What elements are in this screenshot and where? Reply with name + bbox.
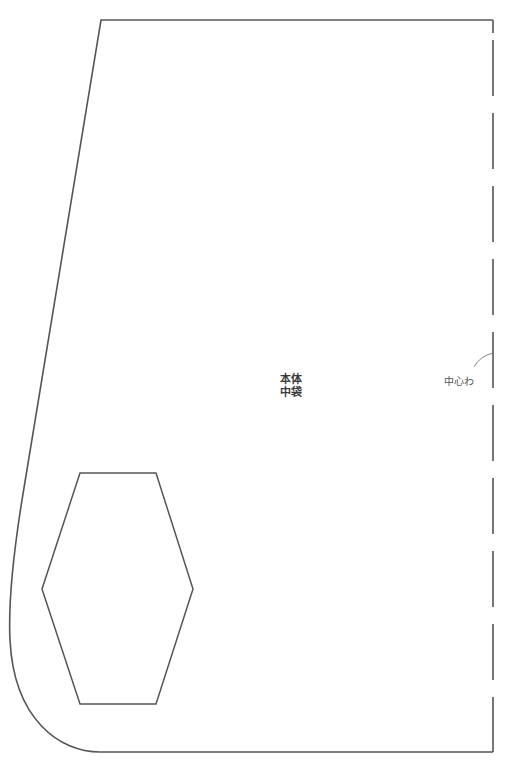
sewing-pattern-piece (0, 0, 510, 770)
piece-label: 本体 中袋 (280, 373, 302, 399)
hexagon-cutout (42, 473, 193, 704)
piece-name-line1: 本体 (280, 373, 302, 386)
center-fold-label: 中心わ (444, 376, 474, 388)
piece-name-line2: 中袋 (280, 386, 302, 399)
pattern-outline (10, 20, 493, 752)
fold-indicator-arc-icon (474, 353, 493, 367)
